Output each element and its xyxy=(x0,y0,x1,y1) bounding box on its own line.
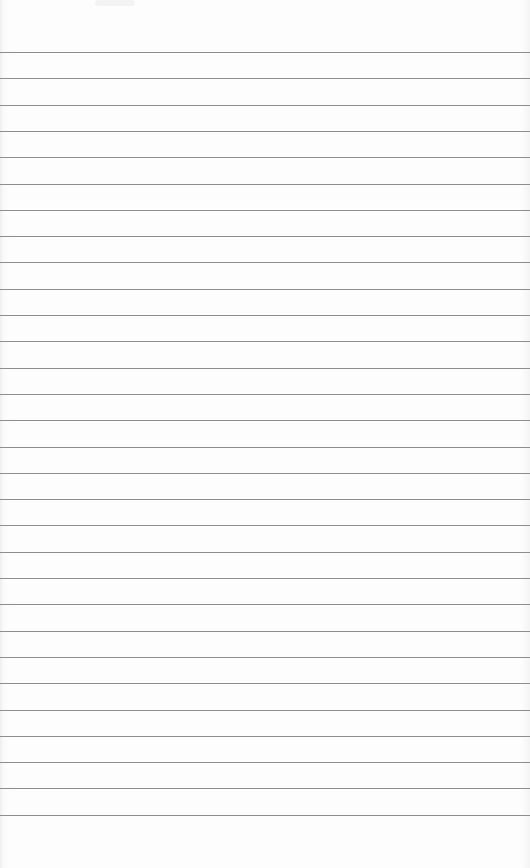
ruled-line xyxy=(0,788,530,789)
ruled-line xyxy=(0,341,530,342)
ruled-paper-page xyxy=(0,0,530,868)
ruled-line xyxy=(0,105,530,106)
ruled-line xyxy=(0,52,530,53)
ruled-line xyxy=(0,78,530,79)
ruled-line xyxy=(0,710,530,711)
ruled-line xyxy=(0,736,530,737)
ruled-line xyxy=(0,210,530,211)
ruled-line xyxy=(0,131,530,132)
ruled-line xyxy=(0,499,530,500)
ruled-line xyxy=(0,420,530,421)
ruled-line xyxy=(0,631,530,632)
ruled-line xyxy=(0,262,530,263)
ruled-line xyxy=(0,762,530,763)
ruled-line xyxy=(0,552,530,553)
ruled-line xyxy=(0,683,530,684)
ruled-line xyxy=(0,289,530,290)
ruled-line xyxy=(0,394,530,395)
ruled-line xyxy=(0,236,530,237)
ruled-line xyxy=(0,157,530,158)
ruled-line xyxy=(0,473,530,474)
ruled-line xyxy=(0,368,530,369)
ruled-line xyxy=(0,815,530,816)
ruled-line xyxy=(0,315,530,316)
ruled-line xyxy=(0,447,530,448)
ruled-line xyxy=(0,525,530,526)
ruled-line xyxy=(0,657,530,658)
ruled-line xyxy=(0,604,530,605)
ruled-line xyxy=(0,184,530,185)
paper-smudge xyxy=(95,0,135,6)
ruled-line xyxy=(0,578,530,579)
